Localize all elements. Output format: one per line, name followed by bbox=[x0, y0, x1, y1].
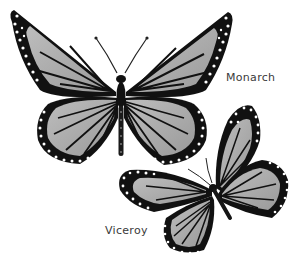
monarch-label: Monarch bbox=[226, 71, 275, 84]
monarch-left-forewing bbox=[10, 10, 116, 97]
monarch-right-hindwing bbox=[124, 97, 207, 165]
monarch-left-hindwing bbox=[37, 97, 118, 164]
monarch-butterfly bbox=[10, 10, 232, 165]
viceroy-label: Viceroy bbox=[105, 224, 148, 237]
monarch-right-forewing bbox=[126, 12, 233, 97]
butterflies-illustration bbox=[0, 0, 304, 274]
